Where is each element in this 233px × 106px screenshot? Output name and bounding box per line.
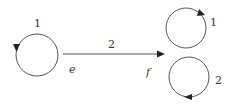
right-loop-2-circle: [169, 57, 209, 97]
edge-start-label: e: [69, 64, 76, 75]
edge-end-label: f: [146, 67, 150, 78]
right-loop-1-label: 1: [210, 17, 217, 28]
right-loop-2-arrow-icon: [184, 94, 192, 100]
diagram-canvas: [0, 0, 233, 106]
edge-label: 2: [108, 39, 115, 50]
right-loop-2-label: 2: [215, 75, 222, 86]
left-loop-label: 1: [34, 18, 41, 29]
left-loop-arrow-icon: [13, 44, 20, 52]
left-loop-circle: [16, 34, 58, 76]
edge-arrow-icon: [157, 51, 165, 58]
right-loop-1-arrow-icon: [197, 9, 205, 16]
